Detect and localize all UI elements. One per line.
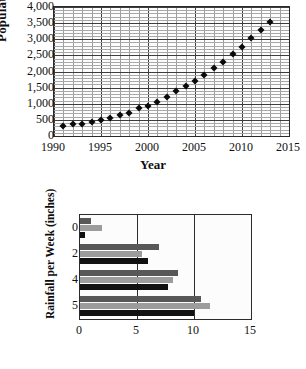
scatter-gridline-horizontal — [54, 94, 289, 95]
bar-x-tick-label: 10 — [187, 323, 199, 338]
scatter-gridline-horizontal — [54, 13, 289, 14]
scatter-gridline-horizontal — [54, 59, 289, 60]
scatter-gridline-horizontal — [54, 88, 289, 89]
bar-segment — [80, 284, 168, 290]
bar-segment — [80, 296, 201, 302]
scatter-gridline-horizontal — [54, 39, 289, 40]
bar-segment — [80, 310, 194, 316]
bar-plot-area — [79, 214, 252, 320]
scatter-gridline-vertical — [280, 7, 281, 136]
scatter-gridline-vertical — [82, 7, 83, 136]
bar-y-axis-title: Rainfall per Week (inches) — [44, 189, 56, 319]
scatter-y-tick-label: 3,500 — [27, 15, 54, 30]
scatter-data-point — [191, 77, 198, 84]
scatter-data-point — [88, 119, 95, 126]
scatter-gridline-vertical — [73, 7, 74, 136]
bar-y-tick-label: 2 — [72, 246, 78, 261]
scatter-gridline-horizontal — [54, 81, 289, 82]
scatter-y-axis-title: Population — [0, 0, 10, 42]
scatter-gridline-vertical — [223, 7, 224, 136]
scatter-gridline-horizontal — [54, 49, 289, 50]
scatter-gridline-horizontal — [54, 23, 289, 24]
scatter-data-point — [182, 83, 189, 90]
bar-segment — [80, 258, 148, 264]
scatter-data-point — [163, 94, 170, 101]
scatter-data-point — [229, 51, 236, 58]
scatter-gridline-horizontal — [54, 84, 289, 85]
scatter-x-tick-label: 1995 — [88, 140, 112, 155]
scatter-data-point — [257, 27, 264, 34]
rainfall-bar-chart: Rainfall per Week (inches) 0245051015 — [0, 185, 306, 369]
scatter-x-tick-label: 2010 — [229, 140, 253, 155]
bar-segment — [80, 232, 85, 238]
scatter-gridline-horizontal — [54, 113, 289, 114]
scatter-gridline-horizontal — [54, 136, 289, 137]
bar-y-tick-label: 4 — [72, 272, 78, 287]
scatter-gridline-vertical — [289, 7, 290, 136]
scatter-data-point — [220, 58, 227, 65]
scatter-y-tick-label: 2,500 — [27, 47, 54, 62]
scatter-gridline-vertical — [129, 7, 130, 136]
scatter-gridline-vertical — [176, 7, 177, 136]
scatter-gridline-horizontal — [54, 52, 289, 53]
scatter-x-axis-title: Year — [0, 157, 306, 173]
scatter-gridline-vertical — [242, 7, 243, 136]
scatter-gridline-horizontal — [54, 33, 289, 34]
figure-page: Population Year 05001,0001,5002,0002,500… — [0, 0, 306, 369]
scatter-x-tick-label: 1990 — [41, 140, 65, 155]
scatter-gridline-horizontal — [54, 133, 289, 134]
scatter-data-point — [144, 102, 151, 109]
scatter-data-point — [126, 109, 133, 116]
bar-segment — [80, 277, 173, 283]
scatter-gridline-vertical — [167, 7, 168, 136]
bar-segment — [80, 251, 142, 257]
scatter-gridline-horizontal — [54, 65, 289, 66]
scatter-gridline-horizontal — [54, 17, 289, 18]
scatter-data-point — [238, 43, 245, 50]
scatter-gridline-vertical — [92, 7, 93, 136]
scatter-gridline-horizontal — [54, 101, 289, 102]
bar-y-tick-label: 5 — [72, 298, 78, 313]
population-scatter-chart: Population Year 05001,0001,5002,0002,500… — [0, 0, 306, 180]
scatter-gridline-vertical — [233, 7, 234, 136]
scatter-x-tick-label: 2015 — [276, 140, 300, 155]
scatter-gridline-horizontal — [54, 75, 289, 76]
scatter-data-point — [107, 115, 114, 122]
scatter-gridline-horizontal — [54, 20, 289, 21]
scatter-y-tick-label: 1,500 — [27, 80, 54, 95]
scatter-x-tick-label: 2005 — [182, 140, 206, 155]
scatter-data-point — [154, 99, 161, 106]
scatter-y-tick-label: 1,000 — [27, 96, 54, 111]
scatter-gridline-horizontal — [54, 55, 289, 56]
scatter-y-tick-label: 3,000 — [27, 31, 54, 46]
scatter-gridline-horizontal — [54, 62, 289, 63]
scatter-data-point — [267, 18, 274, 25]
scatter-y-tick-label: 500 — [36, 112, 54, 127]
bar-segment — [80, 218, 91, 224]
scatter-gridline-horizontal — [54, 97, 289, 98]
scatter-data-point — [97, 117, 104, 124]
scatter-gridline-horizontal — [54, 42, 289, 43]
scatter-gridline-horizontal — [54, 130, 289, 131]
scatter-gridline-horizontal — [54, 7, 289, 8]
scatter-gridline-horizontal — [54, 72, 289, 73]
scatter-gridline-vertical — [54, 7, 55, 136]
scatter-gridline-vertical — [186, 7, 187, 136]
scatter-data-point — [248, 34, 255, 41]
scatter-data-point — [201, 72, 208, 79]
bar-x-tick-label: 0 — [76, 323, 82, 338]
scatter-gridline-horizontal — [54, 10, 289, 11]
scatter-data-point — [116, 111, 123, 118]
scatter-y-tick-label: 2,000 — [27, 64, 54, 79]
scatter-gridline-vertical — [139, 7, 140, 136]
bar-segment — [80, 244, 159, 250]
scatter-gridline-vertical — [195, 7, 196, 136]
scatter-gridline-horizontal — [54, 68, 289, 69]
scatter-gridline-horizontal — [54, 110, 289, 111]
scatter-plot-area — [53, 6, 290, 137]
scatter-gridline-vertical — [157, 7, 158, 136]
scatter-y-tick-label: 4,000 — [27, 0, 54, 14]
bar-segment — [80, 225, 102, 231]
scatter-data-point — [79, 120, 86, 127]
scatter-x-tick-label: 2000 — [135, 140, 159, 155]
